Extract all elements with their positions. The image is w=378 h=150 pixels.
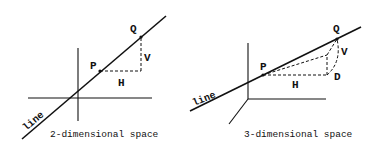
label-h: H — [118, 77, 125, 89]
diag-segment — [263, 55, 327, 75]
diagram-canvas: Q V P H line 2-dimensional space Q V D P… — [0, 0, 378, 150]
label-p: P — [260, 61, 267, 73]
point-q — [335, 37, 338, 40]
label-h: H — [292, 79, 299, 91]
point-q — [139, 35, 142, 38]
point-p — [98, 69, 101, 72]
diagram-3d: Q V D P H line 3-dimensional space — [190, 23, 361, 140]
label-v: V — [144, 52, 151, 64]
label-q: Q — [130, 23, 137, 35]
point-p — [261, 73, 264, 76]
caption-2d: 2-dimensional space — [50, 129, 159, 140]
line-label: line — [191, 90, 217, 109]
label-d: D — [334, 71, 341, 83]
caption-3d: 3-dimensional space — [244, 129, 353, 140]
label-v: V — [341, 46, 348, 58]
d-segment — [327, 39, 338, 75]
label-p: P — [90, 60, 97, 72]
main-line — [22, 16, 166, 139]
diagram-2d: Q V P H line 2-dimensional space — [21, 16, 166, 140]
label-q: Q — [333, 23, 340, 35]
y-axis — [229, 99, 248, 124]
